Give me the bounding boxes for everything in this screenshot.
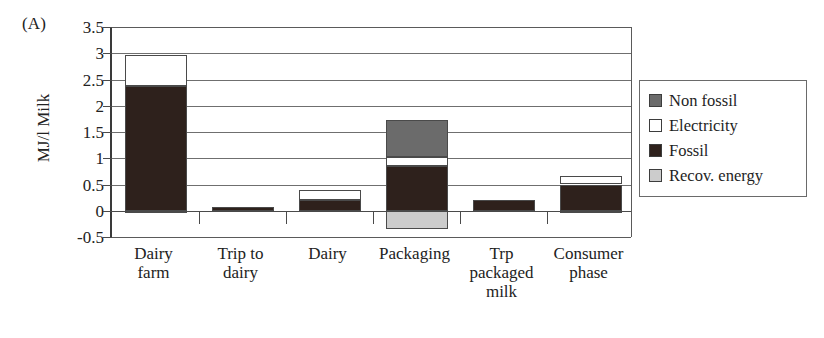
bar-group[interactable] (299, 27, 361, 237)
x-category-label-line: packaged (452, 263, 551, 282)
y-axis-tick-labels: 3.532.521.510.50-0.5 (56, 27, 104, 237)
x-category-label-line: Packaging (365, 244, 464, 263)
bar-segment-electricity[interactable] (125, 55, 187, 86)
legend-swatch-fossil-icon (649, 144, 662, 157)
y-axis-title: MJ/l Milk (34, 48, 54, 208)
x-category-label-line: Consumer (539, 244, 638, 263)
legend-swatch-recov-icon (649, 169, 662, 182)
legend-label: Recov. energy (669, 166, 763, 186)
bar-group[interactable] (473, 27, 535, 237)
legend: Non fossilElectricityFossilRecov. energy (639, 80, 807, 197)
bars-layer (112, 27, 631, 237)
bar-group[interactable] (125, 27, 187, 237)
x-category-label: Dairy (278, 244, 377, 263)
legend-item[interactable]: Electricity (649, 113, 797, 138)
legend-swatch-nonfossil-icon (649, 94, 662, 107)
legend-label: Non fossil (669, 91, 737, 111)
y-tick-mark (103, 185, 112, 186)
y-tick-mark (103, 237, 112, 238)
bar-segment-recov-energy[interactable] (560, 211, 622, 213)
bar-segment-recov-energy[interactable] (125, 211, 187, 214)
panel-label: (A) (22, 14, 46, 34)
x-category-label: Consumerphase (539, 244, 638, 282)
x-category-label-line: milk (452, 282, 551, 301)
x-category-label: Trppackagedmilk (452, 244, 551, 301)
legend-item[interactable]: Non fossil (649, 88, 797, 113)
y-tick-label: 1.5 (83, 124, 104, 141)
y-tick-mark (103, 53, 112, 54)
bar-group[interactable] (560, 27, 622, 237)
y-tick-mark (103, 211, 112, 212)
bar-group[interactable] (386, 27, 448, 237)
legend-item[interactable]: Fossil (649, 138, 797, 163)
x-category-label-line: Trip to (191, 244, 290, 263)
bar-segment-fossil[interactable] (473, 200, 535, 211)
bar-segment-fossil[interactable] (560, 185, 622, 211)
y-tick-mark (103, 27, 112, 28)
x-category-label-line: farm (104, 263, 203, 282)
x-axis-category-labels: DairyfarmTrip todairyDairyPackagingTrppa… (110, 244, 632, 334)
x-category-label-line: Dairy (278, 244, 377, 263)
x-category-label: Dairyfarm (104, 244, 203, 282)
bar-segment-recov-energy[interactable] (386, 211, 448, 229)
x-category-label: Trip todairy (191, 244, 290, 282)
bar-segment-fossil[interactable] (125, 86, 187, 211)
legend-item[interactable]: Recov. energy (649, 163, 797, 188)
bar-segment-fossil[interactable] (299, 200, 361, 211)
y-tick-mark (103, 158, 112, 159)
y-tick-mark (103, 132, 112, 133)
legend-label: Electricity (669, 116, 738, 136)
bar-group[interactable] (212, 27, 274, 237)
bar-segment-electricity[interactable] (299, 190, 361, 201)
x-category-label-line: Trp (452, 244, 551, 263)
x-category-label-line: Dairy (104, 244, 203, 263)
bar-segment-fossil[interactable] (386, 166, 448, 211)
y-tick-label: 2.5 (83, 71, 104, 88)
x-category-label-line: dairy (191, 263, 290, 282)
y-tick-label: 3.5 (83, 19, 104, 36)
bar-segment-electricity[interactable] (560, 176, 622, 184)
legend-swatch-electricity-icon (649, 119, 662, 132)
y-tick-mark (103, 106, 112, 107)
y-tick-label: 0.5 (83, 176, 104, 193)
legend-label: Fossil (669, 141, 708, 161)
bar-segment-non-fossil[interactable] (386, 120, 448, 157)
gridline (112, 237, 631, 238)
bar-segment-fossil[interactable] (212, 207, 274, 211)
plot-area (110, 27, 632, 237)
x-category-label-line: phase (539, 263, 638, 282)
x-category-label: Packaging (365, 244, 464, 263)
bar-segment-electricity[interactable] (386, 157, 448, 166)
y-tick-mark (103, 80, 112, 81)
y-tick-label: -0.5 (77, 229, 104, 246)
